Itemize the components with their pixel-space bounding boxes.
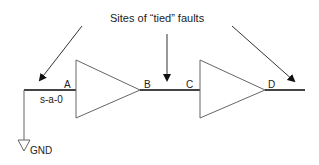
ground-symbol — [18, 140, 30, 151]
arrow-right — [232, 26, 294, 81]
diagram-title: Sites of “tied” faults — [110, 13, 204, 24]
node-c-label: C — [186, 80, 193, 90]
buffer-2 — [200, 60, 265, 118]
node-d-label: D — [268, 80, 275, 90]
ground-label: GND — [30, 146, 52, 156]
node-b-label: B — [144, 80, 151, 90]
node-a-label: A — [64, 80, 71, 90]
buffer-1 — [76, 60, 140, 118]
fault-label: s-a-0 — [40, 95, 63, 105]
